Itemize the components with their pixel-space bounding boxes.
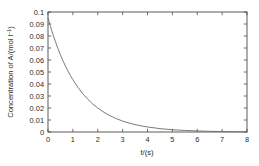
y-tick-label: 0 [40, 128, 44, 137]
y-tick-label: 0.1 [34, 8, 44, 17]
x-tick-label: 1 [71, 135, 75, 144]
y-tick-label: 0.09 [30, 20, 44, 29]
x-axis-title: t/(s) [140, 148, 154, 157]
x-tick-label: 8 [245, 135, 249, 144]
y-tick-label: 0.01 [30, 116, 44, 125]
y-tick-label: 0.03 [30, 92, 44, 101]
chart-figure: 012345678 00.010.020.030.040.050.060.070… [0, 0, 259, 166]
y-tick-label: 0.04 [30, 80, 44, 89]
y-tick-label: 0.07 [30, 44, 44, 53]
x-tick-label: 0 [46, 135, 50, 144]
y-axis-title: Concentration of A/(mol l–1) [6, 26, 15, 118]
x-tick-label: 6 [195, 135, 199, 144]
x-tick-label: 4 [145, 135, 149, 144]
x-tick-label: 3 [121, 135, 125, 144]
concentration-vs-time-chart: 012345678 00.010.020.030.040.050.060.070… [0, 0, 259, 166]
y-tick-label: 0.06 [30, 56, 44, 65]
svg-text:Concentration of A/(mol l–1): Concentration of A/(mol l–1) [6, 26, 15, 118]
x-tick-label: 5 [170, 135, 174, 144]
y-tick-label: 0.05 [30, 68, 44, 77]
y-axis-title-main: Concentration of A/(mol l [6, 34, 15, 117]
x-tick-label: 7 [220, 135, 224, 144]
y-tick-label: 0.08 [30, 32, 44, 41]
y-tick-label: 0.02 [30, 104, 44, 113]
y-axis-tick-labels: 00.010.020.030.040.050.060.070.080.090.1 [30, 8, 44, 137]
x-tick-label: 2 [96, 135, 100, 144]
